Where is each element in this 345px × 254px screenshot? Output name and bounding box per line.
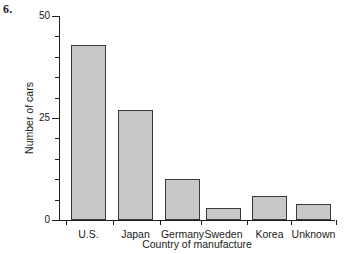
y-axis-line [59,16,60,220]
y-axis-minor-tick [55,57,59,58]
x-axis-tick [66,220,67,225]
bar-germany [165,179,200,220]
y-axis-major-tick [52,220,59,221]
problem-number-label: 6. [3,2,12,16]
bar-u-s [71,45,106,220]
y-axis-minor-tick [55,36,59,37]
x-axis-tick [336,220,337,225]
y-axis-minor-tick [55,159,59,160]
x-axis-tick [201,220,202,225]
x-axis-tick [113,220,114,225]
y-axis-minor-tick [55,98,59,99]
y-axis-minor-tick [55,179,59,180]
bar-sweden [206,208,241,220]
bar-unknown [296,204,331,220]
figure-container: 6. Number of cars 02550 U.S.JapanGermany… [0,0,345,254]
bar-japan [118,110,153,220]
x-axis-tick [160,220,161,225]
x-axis-line [59,220,335,221]
y-axis-major-tick [52,16,59,17]
y-axis-minor-tick [55,77,59,78]
y-axis-tick-label: 0 [44,215,50,225]
x-axis-tick [247,220,248,225]
y-axis-major-tick [52,118,59,119]
y-axis-tick-label: 25 [39,113,50,123]
y-axis-tick-label: 50 [39,11,50,21]
y-axis-title: Number of cars [23,82,35,154]
x-axis-tick [291,220,292,225]
bar-korea [252,196,287,220]
plot-area: 02550 U.S.JapanGermanySwedenKoreaUnknown [59,16,335,220]
x-axis-title: Country of manufacture [59,238,335,250]
y-axis-minor-tick [55,138,59,139]
y-axis-minor-tick [55,200,59,201]
